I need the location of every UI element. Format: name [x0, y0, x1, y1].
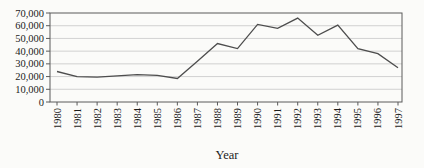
y-axis-labels: 010,00020,00030,00040,00050,00060,00070,…	[15, 8, 44, 108]
x-tick-label: 1994	[332, 107, 343, 129]
x-tick-label: 1987	[192, 108, 203, 129]
x-tick-label: 1996	[372, 108, 383, 129]
y-tick-label: 40,000	[15, 46, 44, 57]
y-tick-label: 0	[39, 97, 44, 108]
y-tick-label: 30,000	[15, 58, 44, 69]
x-tick-label: 1991	[272, 108, 283, 129]
x-tick-label: 1988	[212, 108, 223, 129]
x-tick-label: 1992	[292, 108, 303, 129]
x-tick-label: 1993	[312, 108, 323, 129]
x-axis-title: Year	[215, 148, 239, 162]
x-tick-label: 1985	[152, 108, 163, 129]
x-axis-labels: 1980198119821983198419851986198719881989…	[52, 107, 404, 129]
x-axis-ticks	[57, 102, 398, 106]
x-tick-label: 1984	[132, 107, 143, 129]
x-tick-label: 1995	[352, 108, 363, 129]
y-tick-label: 10,000	[15, 84, 44, 95]
line-chart-figure: 010,00020,00030,00040,00050,00060,00070,…	[0, 0, 424, 168]
x-tick-label: 1997	[393, 108, 404, 129]
chart-svg: 010,00020,00030,00040,00050,00060,00070,…	[0, 0, 424, 168]
plot-border	[50, 13, 402, 102]
x-tick-label: 1990	[252, 108, 263, 129]
x-tick-label: 1980	[52, 108, 63, 129]
y-tick-label: 60,000	[15, 20, 44, 31]
y-tick-label: 50,000	[15, 33, 44, 44]
x-tick-label: 1986	[172, 108, 183, 129]
x-tick-label: 1989	[232, 108, 243, 129]
x-tick-label: 1981	[72, 108, 83, 129]
gridlines	[50, 26, 402, 90]
data-line	[57, 18, 398, 78]
y-tick-label: 70,000	[15, 8, 44, 19]
x-tick-label: 1982	[92, 108, 103, 129]
x-tick-label: 1983	[112, 108, 123, 129]
y-tick-label: 20,000	[15, 71, 44, 82]
y-axis-ticks	[46, 13, 50, 102]
